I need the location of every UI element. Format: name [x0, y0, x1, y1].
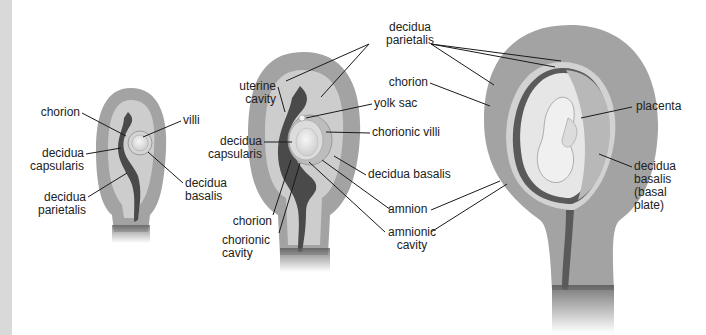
label-decidua-parietalis-early: decidua parietalis: [30, 191, 86, 217]
label-decidua-capsularis-early: decidua capsularis: [24, 147, 84, 173]
label-decidua-parietalis: decidua parietalis: [375, 21, 445, 47]
label-chorion-late: chorion: [380, 76, 428, 89]
uterus-stage-late: [484, 25, 658, 333]
label-chorion: chorion: [222, 215, 272, 228]
label-decidua-basalis-early: decidua basalis: [185, 177, 227, 203]
label-yolk-sac: yolk sac: [374, 97, 417, 110]
label-decidua-basalis-late: decidua basalis (basal plate): [634, 160, 676, 212]
label-amnionic-cavity: amnionic cavity: [380, 226, 444, 252]
label-uterine-cavity: uterine cavity: [202, 80, 276, 106]
label-chorionic-cavity: chorionic cavity: [222, 234, 270, 260]
label-chorion-early: chorion: [36, 106, 80, 119]
label-decidua-basalis: decidua basalis: [368, 168, 451, 181]
uterus-stage-early: [96, 88, 166, 243]
label-chorionic-villi: chorionic villi: [372, 126, 440, 139]
diagram-artwork: [0, 0, 706, 335]
label-placenta: placenta: [636, 100, 681, 113]
label-amnion: amnion: [388, 203, 427, 216]
label-decidua-capsularis: decidua capsularis: [196, 135, 262, 161]
label-villi-early: villi: [183, 114, 200, 127]
